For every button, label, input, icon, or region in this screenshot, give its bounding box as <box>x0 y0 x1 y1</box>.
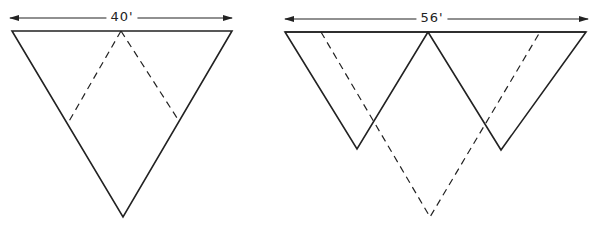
right-dashed-triangle <box>321 32 540 217</box>
left-dashed-line-1 <box>121 31 179 121</box>
right-solid-triangle-left <box>285 32 428 149</box>
left-dashed-lines <box>68 31 179 123</box>
right-figure <box>285 19 588 217</box>
left-solid-triangle <box>12 31 232 217</box>
left-dimension-label: 40' <box>106 10 137 24</box>
left-figure <box>10 18 232 217</box>
left-dashed-line-0 <box>68 31 121 123</box>
right-solid-triangle-right <box>428 32 586 150</box>
triangle-diagram <box>0 0 598 225</box>
right-dimension-label: 56' <box>416 11 447 25</box>
